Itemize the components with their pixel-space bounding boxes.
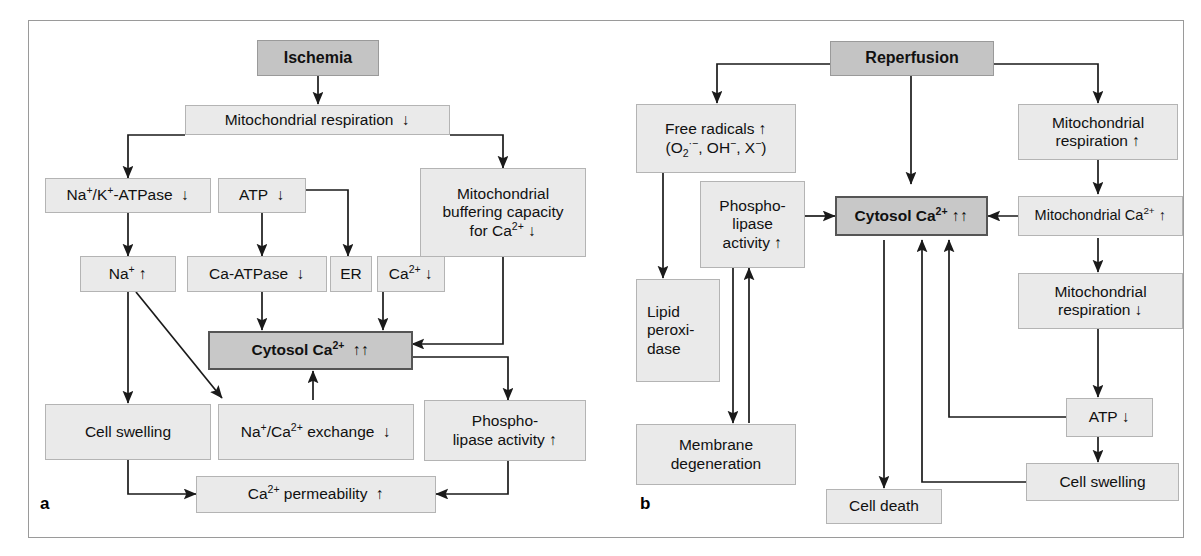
node-atp-label: ATP <box>239 186 268 203</box>
figure-root: Ischemia Mitochondrial respiration ↓ Na+… <box>0 0 1201 556</box>
trend-arrow-up: ↑ <box>759 120 767 137</box>
node-er[interactable]: ER <box>330 256 372 292</box>
trend-arrow-up: ↑ <box>376 485 384 502</box>
buffer-line-3: for Ca <box>470 222 512 239</box>
node-cell-death-label: Cell death <box>849 497 919 515</box>
node-atp-a[interactable]: ATP ↓ <box>218 178 306 213</box>
node-membrane-degeneration[interactable]: Membrane degeneration <box>636 424 796 485</box>
trend-arrow-up: ↑ <box>1132 132 1140 149</box>
buffer-line-2: buffering capacity <box>442 203 563 221</box>
node-ischemia[interactable]: Ischemia <box>257 40 379 76</box>
node-na-k-atpase[interactable]: Na+/K+-ATPase ↓ <box>45 178 211 213</box>
trend-arrow-up: ↑ <box>1159 207 1167 223</box>
trend-arrow-up: ↑ <box>549 431 557 448</box>
lipid-line-1: Lipid <box>647 303 680 321</box>
node-mitochondrial-buffering-capacity[interactable]: Mitochondrial buffering capacity for Ca2… <box>420 168 586 257</box>
panel-label-b: b <box>640 494 650 514</box>
trend-arrow-down: ↓ <box>181 186 189 203</box>
phospho-line-1: Phospho- <box>472 412 538 430</box>
phospho-b-line-3: activity <box>723 234 770 251</box>
node-cell-swelling-b[interactable]: Cell swelling <box>1026 463 1179 501</box>
node-phospholipase-activity-b[interactable]: Phospho- lipase activity ↑ <box>700 181 805 268</box>
mrup-line-2: respiration <box>1056 132 1128 149</box>
mito-ca-label: Mitochondrial Ca <box>1035 207 1144 223</box>
node-atp-b-label: ATP <box>1089 408 1118 425</box>
node-reperfusion-label: Reperfusion <box>865 49 958 68</box>
free-radicals-label: Free radicals <box>665 120 755 137</box>
node-lipid-peroxidase[interactable]: Lipid peroxi- dase <box>636 279 720 382</box>
trend-arrow-double-up: ↑↑ <box>353 341 370 358</box>
node-cytosol-label: Cytosol Ca <box>251 341 332 358</box>
node-cell-death[interactable]: Cell death <box>826 489 942 524</box>
node-calcium-down[interactable]: Ca2+ ↓ <box>377 256 445 292</box>
panel-label-a: a <box>40 494 49 514</box>
trend-arrow-down: ↓ <box>383 423 391 440</box>
membrane-line-1: Membrane <box>679 436 753 454</box>
trend-arrow-down: ↓ <box>1135 301 1143 318</box>
free-radicals-species: (O2·−, OH−, X−) <box>665 139 766 157</box>
mrdn-line-1: Mitochondrial <box>1054 283 1146 301</box>
node-reperfusion[interactable]: Reperfusion <box>830 41 994 76</box>
node-mitochondrial-respiration-up[interactable]: Mitochondrial respiration ↑ <box>1018 104 1178 160</box>
buffer-line-1: Mitochondrial <box>457 185 549 203</box>
trend-arrow-down: ↓ <box>402 111 410 128</box>
lipid-line-2: peroxi- <box>647 321 694 339</box>
mrdn-line-2: respiration <box>1058 301 1130 318</box>
node-calcium-permeability[interactable]: Ca2+ permeability ↑ <box>196 476 436 513</box>
node-free-radicals[interactable]: Free radicals ↑ (O2·−, OH−, X−) <box>636 104 796 173</box>
node-mitochondrial-respiration-down[interactable]: Mitochondrial respiration ↓ <box>1018 273 1183 329</box>
node-cytosol-b-label: Cytosol Ca <box>855 207 936 224</box>
trend-arrow-down: ↓ <box>1122 408 1130 425</box>
node-mitochondrial-calcium[interactable]: Mitochondrial Ca2+ ↑ <box>1018 196 1183 236</box>
phospho-b-line-1: Phospho- <box>719 197 785 215</box>
trend-arrow-down: ↓ <box>425 265 433 282</box>
node-ca-atpase[interactable]: Ca-ATPase ↓ <box>187 256 327 292</box>
node-mitochondrial-respiration[interactable]: Mitochondrial respiration ↓ <box>185 105 450 135</box>
node-atp-b[interactable]: ATP ↓ <box>1066 398 1153 437</box>
node-ischemia-label: Ischemia <box>284 49 352 68</box>
node-cytosol-calcium-b[interactable]: Cytosol Ca2+ ↑↑ <box>835 196 988 236</box>
node-cell-swelling-label: Cell swelling <box>85 423 171 441</box>
node-na-ca-exchange[interactable]: Na+/Ca2+ exchange ↓ <box>218 404 414 460</box>
node-cell-swelling-b-label: Cell swelling <box>1059 473 1145 491</box>
node-ca-atpase-label: Ca-ATPase <box>209 265 288 282</box>
lipid-line-3: dase <box>647 340 681 358</box>
node-ca-perm-label: permeability <box>280 485 368 502</box>
node-cytosol-calcium-a[interactable]: Cytosol Ca2+ ↑↑ <box>208 331 413 370</box>
node-er-label: ER <box>340 265 362 283</box>
phospho-b-line-2: lipase <box>732 215 773 233</box>
trend-arrow-up: ↑ <box>774 234 782 251</box>
trend-arrow-double-up: ↑↑ <box>952 207 969 224</box>
mrup-line-1: Mitochondrial <box>1052 114 1144 132</box>
trend-arrow-down: ↓ <box>277 186 285 203</box>
trend-arrow-up: ↑ <box>139 265 147 282</box>
phospho-line-2: lipase activity <box>453 431 545 448</box>
node-mitochondrial-respiration-label: Mitochondrial respiration <box>225 111 394 128</box>
node-sodium-up[interactable]: Na+ ↑ <box>80 256 176 292</box>
trend-arrow-down: ↓ <box>297 265 305 282</box>
trend-arrow-down: ↓ <box>528 222 536 239</box>
node-cell-swelling-a[interactable]: Cell swelling <box>45 404 211 460</box>
node-phospholipase-activity-a[interactable]: Phospho- lipase activity ↑ <box>424 400 586 461</box>
membrane-line-2: degeneration <box>671 455 762 473</box>
